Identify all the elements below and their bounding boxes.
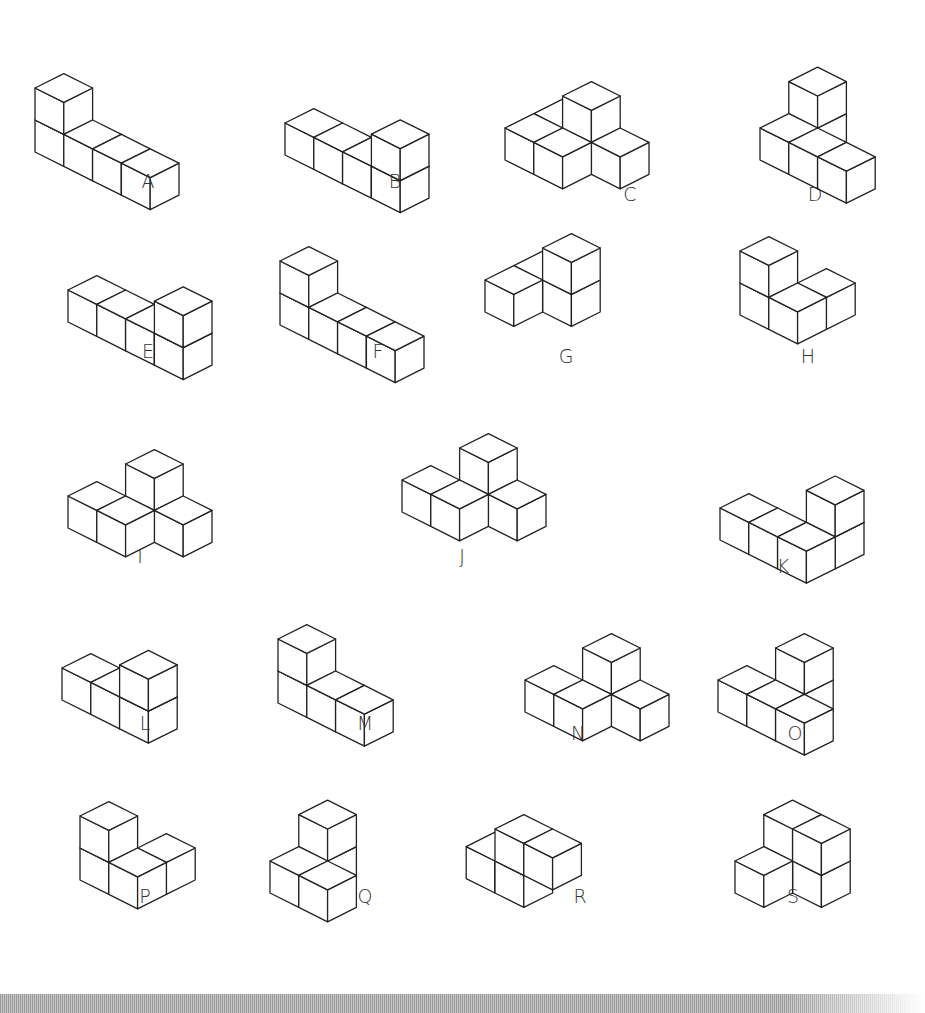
cube-figure-a xyxy=(35,74,179,210)
figure-label-a: A xyxy=(142,170,155,192)
figure-label-n: N xyxy=(571,722,585,744)
figure-label-g: G xyxy=(559,345,574,367)
figure-label-m: M xyxy=(357,712,373,734)
cube-figure-o xyxy=(718,634,833,756)
figure-label-f: F xyxy=(373,340,384,362)
cube-figure-c xyxy=(505,82,649,189)
cube-figure-b xyxy=(285,109,429,213)
cube-figure-f xyxy=(280,247,424,383)
scan-edge-bar xyxy=(0,994,925,1013)
cube-figure-r xyxy=(466,815,581,908)
figure-label-p: P xyxy=(139,885,150,907)
cube-figure-g xyxy=(485,234,600,327)
figure-label-s: S xyxy=(787,885,799,907)
cube-figure-e xyxy=(68,276,212,380)
figure-label-q: Q xyxy=(358,885,373,907)
cube-figures-canvas xyxy=(0,0,925,1013)
figure-label-l: L xyxy=(140,712,151,734)
figure-label-d: D xyxy=(808,183,823,205)
figure-label-b: B xyxy=(389,170,401,192)
cube-figure-q xyxy=(270,800,356,922)
figure-label-o: O xyxy=(788,722,803,744)
figure-label-r: R xyxy=(573,885,586,907)
figure-label-j: J xyxy=(459,545,465,567)
cube-figure-m xyxy=(278,625,393,747)
cube-figure-h xyxy=(740,237,855,344)
figure-label-e: E xyxy=(142,340,154,362)
cube-figure-i xyxy=(68,450,212,557)
figure-label-c: C xyxy=(623,183,636,205)
cube-figure-j xyxy=(402,434,546,541)
cube-figure-l xyxy=(62,650,177,743)
figure-label-k: K xyxy=(777,555,789,577)
figure-label-h: H xyxy=(801,345,815,367)
cube-figure-p xyxy=(80,802,195,909)
cube-figure-k xyxy=(720,476,864,583)
figure-label-i: I xyxy=(137,545,143,567)
cube-figure-n xyxy=(525,634,669,741)
